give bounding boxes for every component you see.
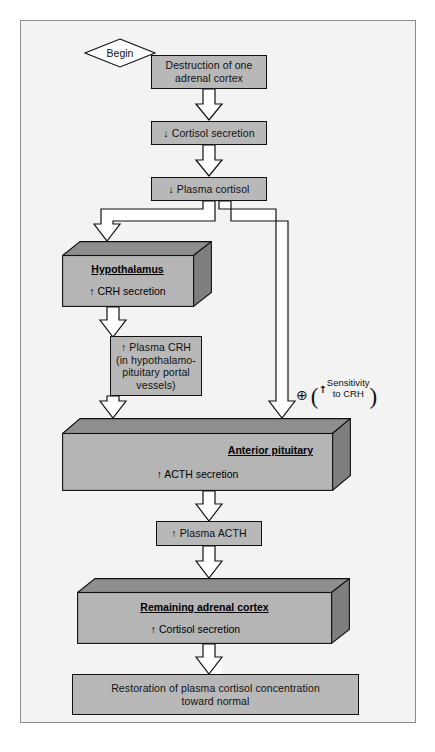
- up-arrow-icon: ↑: [318, 384, 326, 395]
- close-paren: ): [370, 384, 378, 409]
- plasma-acth-text: ↑ Plasma ACTH: [171, 527, 246, 540]
- node-cortisol-secretion-down: ↓ Cortisol secretion: [151, 121, 267, 145]
- node-remaining-adrenal-cortex: Remaining adrenal cortex ↑ Cortisol secr…: [77, 578, 350, 644]
- node-destruction-text: Destruction of one adrenal cortex: [165, 59, 252, 85]
- restoration-line1: Restoration of plasma cortisol concentra…: [111, 682, 320, 694]
- begin-label: Begin: [84, 38, 156, 68]
- edge-plasma-to-pituitary: [219, 201, 295, 418]
- plasma-crh-line2: (in hypothalamo-: [116, 354, 196, 366]
- remaining-adrenal-cortex-title: Remaining adrenal cortex: [77, 601, 332, 613]
- sensitivity-text: Sensitivityto CRH: [327, 377, 370, 399]
- anterior-pituitary-subtext: ↑ ACTH secretion: [62, 468, 333, 480]
- sensitivity-annotation: ⊕ (↑Sensitivityto CRH): [296, 377, 377, 410]
- plasma-crh-text: ↑ Plasma CRH (in hypothalamo- pituitary …: [116, 341, 196, 391]
- destruction-line2: adrenal cortex: [175, 72, 243, 84]
- plasma-crh-line4: vessels): [136, 379, 175, 391]
- plasma-cortisol-down-text: ↓ Plasma cortisol: [168, 183, 249, 196]
- node-destruction: Destruction of one adrenal cortex: [151, 55, 267, 89]
- node-plasma-crh: ↑ Plasma CRH (in hypothalamo- pituitary …: [110, 336, 202, 396]
- begin-node: Begin: [84, 38, 156, 68]
- plasma-crh-line1: ↑ Plasma CRH: [121, 341, 191, 353]
- node-restoration: Restoration of plasma cortisol concentra…: [72, 674, 359, 715]
- hypothalamus-title: Hypothalamus: [62, 263, 193, 275]
- edge-pituitary-to-acth: [196, 491, 222, 521]
- edge-hypothalamus-to-crh: [100, 307, 126, 337]
- diagram-root: Begin Destruction of one adrenal cortex …: [0, 0, 435, 752]
- hypothalamus-subtext: ↑ CRH secretion: [62, 285, 193, 297]
- node-plasma-acth: ↑ Plasma ACTH: [156, 521, 262, 546]
- node-anterior-pituitary: Anterior pituitary ↑ ACTH secretion: [62, 418, 351, 491]
- edge-crh-to-pituitary: [100, 396, 126, 418]
- destruction-line1: Destruction of one: [165, 59, 252, 71]
- edge-destruction-to-cortisol: [196, 89, 222, 120]
- edge-plasma-to-hypothalamus: [94, 201, 215, 241]
- restoration-text: Restoration of plasma cortisol concentra…: [111, 682, 320, 708]
- plasma-crh-line3: pituitary portal: [122, 366, 190, 378]
- cortisol-secretion-down-text: ↓ Cortisol secretion: [163, 127, 254, 140]
- edge-cortisol-to-plasma: [196, 145, 222, 176]
- remaining-adrenal-cortex-subtext: ↑ Cortisol secretion: [77, 623, 314, 635]
- sensitivity-line2: to CRH: [333, 388, 364, 399]
- node-hypothalamus: Hypothalamus ↑ CRH secretion: [62, 241, 212, 307]
- anterior-pituitary-title: Anterior pituitary: [62, 444, 313, 456]
- node-plasma-cortisol-down: ↓ Plasma cortisol: [151, 177, 267, 201]
- edge-acth-to-cortex: [196, 546, 222, 578]
- edge-cortex-to-restoration: [196, 644, 222, 674]
- sensitivity-line1: Sensitivity: [327, 377, 370, 388]
- restoration-line2: toward normal: [182, 695, 250, 707]
- plus-circle-icon: ⊕: [296, 387, 308, 403]
